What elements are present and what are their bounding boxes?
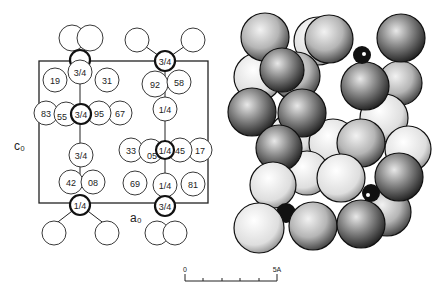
- atom: [42, 221, 66, 245]
- atom: [125, 28, 149, 52]
- atom-label: 1/4: [159, 146, 172, 156]
- atom-label: 33: [126, 146, 136, 156]
- atom: [77, 25, 103, 51]
- atom-label: 1/4: [159, 105, 172, 115]
- atom-label: 3/4: [159, 57, 172, 67]
- atom-label: 67: [115, 109, 125, 119]
- atom: [181, 28, 205, 52]
- scale-start-label: 0: [183, 266, 187, 273]
- atom-label: 31: [102, 76, 112, 86]
- atom-label: 81: [188, 180, 198, 190]
- atom-label: 08: [88, 178, 98, 188]
- axis-label-a0: a₀: [130, 211, 142, 225]
- atom-label: 3/4: [74, 68, 87, 78]
- atom: [95, 221, 119, 245]
- atom-label: 3/4: [75, 110, 88, 120]
- atom-label: 69: [130, 179, 140, 189]
- atom-label: 3/4: [159, 202, 172, 212]
- atom: [163, 221, 187, 245]
- sphere-packing-model: [228, 13, 431, 253]
- atom-label: 55: [57, 112, 67, 122]
- atom-label: 83: [41, 109, 51, 119]
- scale-bar: 0 5A: [183, 266, 282, 281]
- atom-label: 42: [66, 178, 76, 188]
- atom-label: 58: [174, 78, 184, 88]
- atom-label: 45: [175, 146, 185, 156]
- atom-label: 1/4: [159, 181, 172, 191]
- atom-label: 95: [94, 109, 104, 119]
- atom-label: 92: [150, 80, 160, 90]
- crystal-structure-figure: 3/4 19 31 3/4 92 58 83 55 67 95 3/4 1/4 …: [0, 0, 445, 294]
- atom-label: 1/4: [74, 201, 87, 211]
- atom-label: 17: [195, 146, 205, 156]
- axis-label-c0: c₀: [14, 139, 25, 153]
- atom-label: 19: [50, 76, 60, 86]
- unit-cell-diagram: 3/4 19 31 3/4 92 58 83 55 67 95 3/4 1/4 …: [14, 25, 212, 245]
- scale-end-label: 5A: [273, 266, 282, 273]
- atom-label: 3/4: [75, 151, 88, 161]
